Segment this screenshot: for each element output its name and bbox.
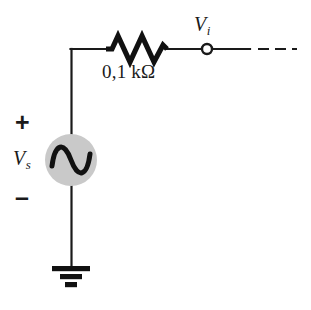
wire-group bbox=[71, 49, 251, 266]
polarity-plus-label: + bbox=[15, 110, 30, 135]
source-voltage-subscript: s bbox=[26, 157, 31, 172]
source-voltage-label: Vs bbox=[13, 148, 31, 171]
ground-symbol-icon bbox=[52, 266, 90, 287]
polarity-minus-label: – bbox=[15, 185, 29, 210]
node-voltage-label: Vi bbox=[194, 14, 210, 37]
output-node-vi-icon bbox=[202, 44, 212, 54]
circuit-schematic bbox=[0, 0, 311, 310]
ac-voltage-source-icon bbox=[45, 134, 97, 186]
node-voltage-symbol: V bbox=[194, 13, 206, 35]
resistor-value-label: 0,1 kΩ bbox=[102, 62, 155, 81]
series-resistor-icon bbox=[106, 36, 167, 62]
circuit-diagram-canvas: Vs Vi + – 0,1 kΩ bbox=[0, 0, 311, 310]
source-voltage-symbol: V bbox=[13, 147, 25, 169]
node-voltage-subscript: i bbox=[207, 23, 211, 38]
